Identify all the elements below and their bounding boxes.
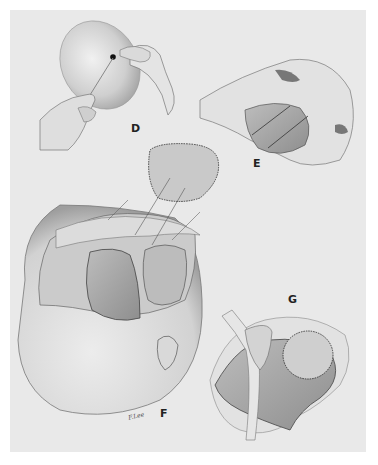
panel-f (18, 178, 202, 414)
panel-label-f: F (160, 407, 168, 420)
panel-d (40, 6, 174, 150)
panel-g (210, 310, 349, 440)
panel-label-g: G (288, 293, 297, 306)
panel-e (200, 59, 353, 165)
surgical-illustration (0, 0, 378, 465)
panel-label-d: D (131, 122, 140, 135)
panel-label-e: E (253, 157, 261, 170)
panel-f-graft (149, 144, 219, 202)
